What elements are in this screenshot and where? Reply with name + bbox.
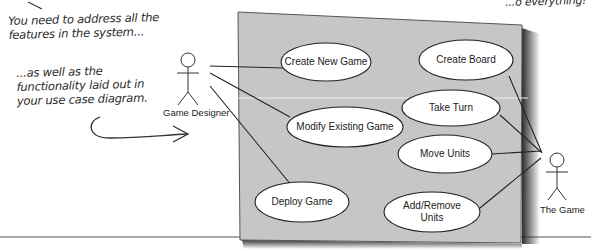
use-case-create-board-ellipse: [419, 40, 513, 80]
actor-the-game-figure: [546, 153, 568, 200]
callout-pointer-line: [28, 2, 42, 9]
use-case-take-turn-ellipse: [402, 90, 500, 126]
actor-the-game-label: The Game: [540, 204, 585, 215]
annotation-features-note: You need to address all the features in …: [8, 10, 160, 42]
use-case-modify-existing-game-ellipse: [287, 107, 403, 147]
use-case-move-units-ellipse: [398, 135, 492, 173]
use-case-add-remove-units-ellipse: [384, 192, 480, 232]
actor-game-designer-label: Game Designer: [163, 107, 230, 118]
hand-drawn-arrow: [91, 117, 187, 138]
system-box-shadow-right: [522, 28, 540, 244]
use-case-create-new-game-ellipse: [281, 43, 371, 81]
use-case-deploy-game-ellipse: [255, 182, 349, 222]
actor-game-designer-figure: [177, 53, 199, 105]
annotation-functionality-note: ...as well as the functionality laid out…: [16, 63, 148, 108]
